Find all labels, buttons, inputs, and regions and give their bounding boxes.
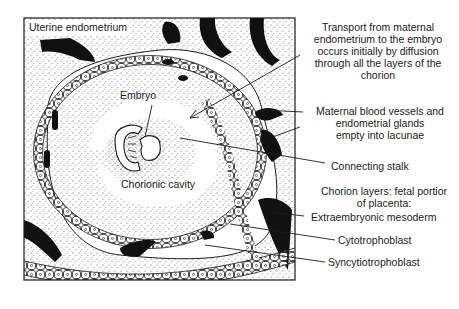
chorion-diagram: Uterine endometrium Embryo Chorionic cav… (0, 0, 459, 309)
callout-cytotrophoblast: Cytotrophoblast (338, 234, 412, 246)
uterine-endometrium-label: Uterine endometrium (29, 21, 127, 33)
callout-chorion-layers: Chorion layers: fetal portior of placent… (310, 185, 458, 209)
chorionic-cavity-label: Chorionic cavity (121, 178, 195, 190)
callout-syncytiotrophoblast: Syncytiotrophoblast (328, 256, 420, 268)
embryo-label: Embryo (120, 89, 156, 101)
callout-maternal-vessels: Maternal blood vessels and endometrial g… (305, 105, 455, 141)
callout-transport: Transport from maternal endometrium to t… (303, 21, 453, 81)
callout-extraembryonic-mesoderm: Extraembryonic mesoderm (311, 211, 436, 223)
callout-connecting-stalk: Connecting stalk (331, 160, 409, 172)
